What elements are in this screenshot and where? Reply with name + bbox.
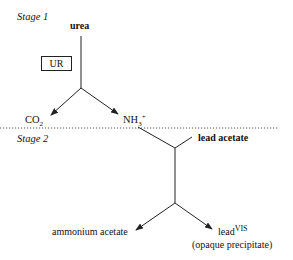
co2-sub: 2 bbox=[40, 120, 44, 128]
enzyme-box: UR bbox=[41, 56, 72, 71]
co2-label: CO2 bbox=[25, 115, 43, 126]
nh3-sub: 3 bbox=[138, 120, 142, 128]
enzyme-label: UR bbox=[50, 58, 64, 69]
arrow-to-co2 bbox=[51, 88, 81, 115]
precipitate-note: (opaque precipitate) bbox=[192, 240, 272, 250]
stage2-label: Stage 2 bbox=[17, 134, 48, 145]
urea-label: urea bbox=[70, 21, 89, 31]
lead-base: lead bbox=[218, 226, 235, 237]
lead-acetate-branch-line bbox=[175, 137, 192, 148]
nh3-base: NH bbox=[123, 114, 138, 125]
nh3-to-junction-line bbox=[138, 127, 175, 148]
lead-acetate-label: lead acetate bbox=[198, 133, 248, 143]
arrow-to-nh3 bbox=[81, 88, 118, 114]
ammonium-acetate-label: ammonium acetate bbox=[52, 227, 128, 237]
arrow-to-ammonium-acetate bbox=[136, 203, 175, 230]
co2-base: CO bbox=[25, 114, 40, 125]
nh3-sup: + bbox=[142, 113, 146, 121]
lead-vis-label: leadVIS bbox=[218, 227, 248, 237]
arrow-to-lead-vis bbox=[175, 203, 212, 229]
lead-sup: VIS bbox=[235, 224, 248, 233]
reaction-diagram-lines bbox=[0, 0, 293, 260]
stage1-label: Stage 1 bbox=[17, 12, 48, 23]
nh3-label: NH3+ bbox=[123, 115, 146, 126]
